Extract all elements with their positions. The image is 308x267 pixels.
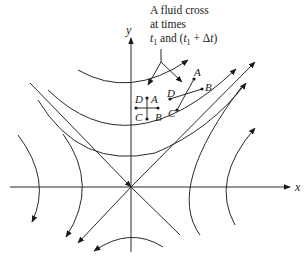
later-label-b: B	[205, 81, 212, 93]
diagram-caption: A fluid cross at times t1 and (t1 + Δt)	[150, 3, 217, 50]
later-label-a: A	[193, 66, 201, 78]
caption-line-2: at times	[150, 17, 217, 31]
x-axis-label: x	[294, 180, 301, 194]
caption-line-1: A fluid cross	[150, 3, 217, 17]
streamline-right-1	[189, 85, 243, 235]
initial-label-c: C	[135, 111, 143, 123]
pointer-to-initial-cross	[148, 62, 161, 85]
asymptote-outgoing-lower	[78, 187, 131, 243]
caption-line-3: t1 and (t1 + Δt)	[150, 31, 217, 50]
y-axis-label: y	[125, 23, 132, 37]
initial-label-b: B	[155, 111, 162, 123]
diagram-canvas: x y A B C	[0, 0, 308, 267]
streamline-left-1	[18, 135, 39, 222]
fluid-cross-initial: A B C D	[134, 93, 162, 123]
initial-label-a: A	[150, 93, 158, 105]
pointer-to-later-cross	[161, 62, 182, 82]
streamline-bottom	[94, 237, 163, 251]
later-label-d: D	[166, 87, 175, 99]
later-label-c: C	[168, 107, 176, 119]
initial-label-d: D	[134, 93, 143, 105]
streamline-right-2	[226, 128, 255, 225]
asymptote-incoming-lower	[131, 187, 180, 235]
streamline-left-2	[63, 134, 82, 237]
